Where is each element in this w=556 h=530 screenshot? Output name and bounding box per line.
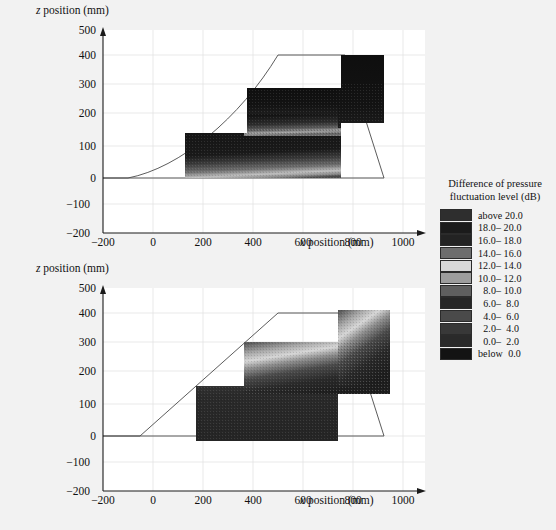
legend-swatch <box>440 247 472 259</box>
upper-xtick: 0 <box>128 236 178 248</box>
lower-panel: z position (mm) <box>0 258 436 530</box>
upper-xtick: 400 <box>228 236 278 248</box>
legend-row: 8.0– 10.0 <box>440 285 556 298</box>
legend-label: 18.0– 20.0 <box>478 222 522 233</box>
legend-label: 8.0– 10.0 <box>478 285 522 296</box>
legend-label: 2.0– 4.0 <box>478 323 519 334</box>
legend-label: 6.0– 8.0 <box>478 298 519 309</box>
legend-label: 0.0– 2.0 <box>478 336 519 347</box>
legend-swatch <box>440 285 472 297</box>
upper-ytick: 200 <box>58 107 96 119</box>
lower-xtick: 400 <box>228 494 278 506</box>
legend-row: 14.0– 16.0 <box>440 247 556 260</box>
legend-swatch <box>440 272 472 284</box>
upper-x-axis-title: x position (mm) <box>300 236 373 248</box>
legend-swatch <box>440 234 472 246</box>
legend-row: 4.0– 6.0 <box>440 310 556 323</box>
figure-container: z position (mm) <box>0 0 556 530</box>
upper-xtick: 1000 <box>378 236 428 248</box>
upper-xtick: 200 <box>178 236 228 248</box>
legend-swatch <box>440 335 472 347</box>
lower-ytick: 500 <box>58 282 96 294</box>
legend-swatch <box>440 209 472 221</box>
legend-swatch <box>440 323 472 335</box>
colorbar-legend: Difference of pressure fluctuation level… <box>434 178 556 360</box>
legend-swatch <box>440 222 472 234</box>
legend-row: 10.0– 12.0 <box>440 272 556 285</box>
lower-x-axis-title: x position (mm) <box>300 494 373 506</box>
legend-swatch <box>440 260 472 272</box>
legend-swatch <box>440 310 472 322</box>
legend-row: 0.0– 2.0 <box>440 335 556 348</box>
lower-ytick: −100 <box>52 456 90 468</box>
legend-title-line1: Difference of pressure <box>434 178 556 191</box>
legend-row: 18.0– 20.0 <box>440 222 556 235</box>
legend-label: 12.0– 14.0 <box>478 260 522 271</box>
lower-ytick: 300 <box>58 336 96 348</box>
lower-ytick: 200 <box>58 365 96 377</box>
lower-ytick: 100 <box>58 398 96 410</box>
legend-entries: above 20.018.0– 20.016.0– 18.014.0– 16.0… <box>440 209 556 360</box>
lower-ytick: 400 <box>58 307 96 319</box>
legend-row: below 0.0 <box>440 348 556 361</box>
legend-swatch <box>440 297 472 309</box>
legend-swatch <box>440 348 472 360</box>
upper-ytick: 500 <box>58 24 96 36</box>
upper-panel: z position (mm) <box>0 0 436 268</box>
lower-xtick: 1000 <box>378 494 428 506</box>
legend-label: below 0.0 <box>478 348 521 359</box>
legend-title-line2: fluctuation level (dB) <box>434 191 556 204</box>
legend-label: 4.0– 6.0 <box>478 311 519 322</box>
legend-label: 16.0– 18.0 <box>478 235 522 246</box>
legend-label: 10.0– 12.0 <box>478 273 522 284</box>
upper-ytick: 400 <box>58 49 96 61</box>
upper-ytick: 0 <box>58 172 96 184</box>
lower-ytick: 0 <box>58 430 96 442</box>
legend-row: 12.0– 14.0 <box>440 259 556 272</box>
legend-label: above 20.0 <box>478 210 523 221</box>
lower-xtick: −200 <box>78 494 128 506</box>
upper-xtick: −200 <box>78 236 128 248</box>
legend-label: 14.0– 16.0 <box>478 248 522 259</box>
legend-row: 6.0– 8.0 <box>440 297 556 310</box>
upper-ytick: −100 <box>52 198 90 210</box>
upper-ytick: 300 <box>58 78 96 90</box>
upper-ytick: 100 <box>58 140 96 152</box>
legend-row: 2.0– 4.0 <box>440 322 556 335</box>
legend-row: above 20.0 <box>440 209 556 222</box>
lower-xtick: 0 <box>128 494 178 506</box>
legend-row: 16.0– 18.0 <box>440 234 556 247</box>
lower-xtick: 200 <box>178 494 228 506</box>
